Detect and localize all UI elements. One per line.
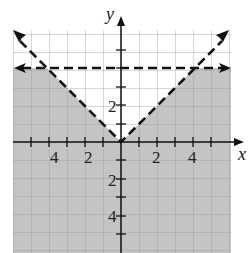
coordinate-plane: y x 4 2 2 4 2 2 4 (0, 0, 250, 253)
y-axis-label: y (104, 4, 114, 24)
y-tick-label: 4 (108, 207, 117, 226)
x-tick-label: 2 (152, 148, 161, 167)
x-tick-label: 4 (50, 148, 59, 167)
x-axis-label: x (237, 144, 246, 164)
y-tick-label: 2 (108, 97, 117, 116)
x-tick-label: 4 (188, 148, 197, 167)
y-axis-arrow-icon (117, 16, 125, 26)
y-tick-label: 2 (108, 171, 117, 190)
x-tick-label: 2 (84, 148, 93, 167)
